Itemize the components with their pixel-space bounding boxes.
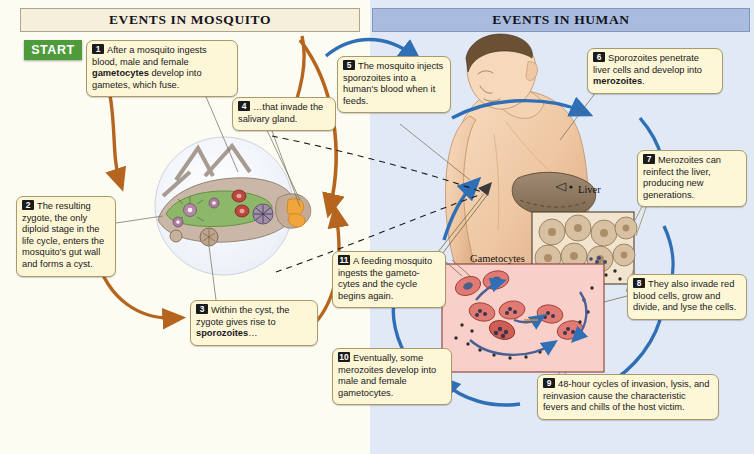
step-text-11: A feeding mosquito ingests the gameto-cy… <box>338 256 432 301</box>
start-badge: START <box>24 40 82 60</box>
start-badge-label: START <box>31 43 75 57</box>
step-number-8: 8 <box>633 278 645 288</box>
callout-step-5: 5The mosquito injects sporozoites into a… <box>337 56 451 113</box>
header-mosquito-label: EVENTS IN MOSQUITO <box>109 12 271 28</box>
callout-step-8: 8They also invade red blood cells, grow … <box>627 274 747 320</box>
callout-step-2: 2The resulting zygote, the only diploid … <box>16 196 116 277</box>
callout-step-10: 10Eventually, some merozoites develop in… <box>332 348 452 405</box>
callout-step-1: 1After a mosquito ingests blood, male an… <box>86 40 238 97</box>
step-text-2: The resulting zygote, the only diploid s… <box>22 201 104 269</box>
callout-step-7: 7Merozoites can reinfect the liver, prod… <box>637 150 747 207</box>
step-number-11: 11 <box>338 255 350 265</box>
step-text-6: Sporozoites penetrate liver cells and de… <box>593 53 702 86</box>
step-text-10: Eventually, some merozoites develop into… <box>338 353 436 398</box>
step-text-4: …that invade the salivary gland. <box>238 102 323 124</box>
step-number-9: 9 <box>543 378 555 388</box>
callout-step-3: 3Within the cyst, the zygote gives rise … <box>190 300 318 346</box>
step-number-1: 1 <box>92 44 104 54</box>
header-events-in-human: EVENTS IN HUMAN <box>372 8 750 32</box>
step-number-3: 3 <box>196 304 208 314</box>
step-number-10: 10 <box>338 352 350 362</box>
step-number-2: 2 <box>22 200 34 210</box>
step-number-6: 6 <box>593 52 605 62</box>
callout-step-11: 11A feeding mosquito ingests the gameto-… <box>332 251 446 308</box>
step-number-7: 7 <box>643 154 655 164</box>
step-text-1: After a mosquito ingests blood, male and… <box>92 45 207 90</box>
step-text-5: The mosquito injects sporozoites into a … <box>343 61 443 106</box>
step-number-5: 5 <box>343 60 355 70</box>
mosquito-gut-illustration <box>116 120 311 300</box>
header-human-label: EVENTS IN HUMAN <box>492 12 629 28</box>
callout-step-6: 6Sporozoites penetrate liver cells and d… <box>587 48 723 94</box>
art-label-gametocytes: Gametocytes <box>470 253 525 264</box>
step-text-3: Within the cyst, the zygote gives rise t… <box>196 305 290 338</box>
step-number-4: 4 <box>238 101 250 111</box>
malaria-life-cycle-diagram: Liver <box>0 0 754 454</box>
header-events-in-mosquito: EVENTS IN MOSQUITO <box>20 8 360 32</box>
step-text-9: 48-hour cycles of invasion, lysis, and r… <box>543 379 709 412</box>
art-label-liver: Liver <box>578 184 601 195</box>
callout-step-4: 4…that invade the salivary gland. <box>232 97 336 131</box>
step-text-8: They also invade red blood cells, grow a… <box>633 279 736 312</box>
callout-step-9: 948-hour cycles of invasion, lysis, and … <box>537 374 719 420</box>
